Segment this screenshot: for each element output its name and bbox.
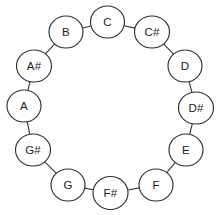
note-label-d: D xyxy=(181,60,190,72)
note-label-gs: G# xyxy=(25,144,41,156)
edge-cs-to-d xyxy=(164,44,174,54)
note-label-cs: C# xyxy=(144,26,160,38)
note-node-g[interactable]: G xyxy=(51,169,85,201)
edge-b-to-c xyxy=(82,26,91,28)
note-node-f[interactable]: F xyxy=(139,169,173,201)
note-node-ds[interactable]: D# xyxy=(179,92,214,124)
note-label-fs: F# xyxy=(104,187,118,199)
note-label-f: F xyxy=(152,179,159,191)
edge-a-to-as xyxy=(28,82,30,91)
note-node-cs[interactable]: C# xyxy=(135,16,170,48)
note-node-d[interactable]: D xyxy=(168,50,202,82)
note-node-c[interactable]: C xyxy=(91,6,125,38)
edge-e-to-f xyxy=(167,162,176,172)
edge-gs-to-a xyxy=(27,122,30,135)
note-node-fs[interactable]: F# xyxy=(93,177,128,210)
note-label-ds: D# xyxy=(188,102,204,114)
note-node-b[interactable]: B xyxy=(49,16,83,48)
note-node-a[interactable]: A xyxy=(7,90,41,122)
edge-layer xyxy=(27,26,192,190)
note-label-a: A xyxy=(20,100,28,112)
note-label-c: C xyxy=(103,16,112,28)
edge-d-to-ds xyxy=(189,82,192,93)
chromatic-circle-canvas: CC#DD#EFF#GG#AA#B xyxy=(0,0,219,215)
edge-as-to-b xyxy=(45,44,54,54)
note-node-e[interactable]: E xyxy=(169,134,203,166)
edge-ds-to-e xyxy=(190,124,193,135)
edge-f-to-fs xyxy=(128,188,140,190)
chromatic-circle-diagram: CC#DD#EFF#GG#AA#B xyxy=(0,0,219,215)
edge-fs-to-g xyxy=(85,188,94,190)
note-label-as: A# xyxy=(27,60,42,72)
note-node-as[interactable]: A# xyxy=(17,50,52,82)
note-label-e: E xyxy=(182,144,190,156)
node-layer: CC#DD#EFF#GG#AA#B xyxy=(7,6,214,210)
edge-c-to-cs xyxy=(124,26,135,28)
note-node-gs[interactable]: G# xyxy=(16,134,51,166)
note-label-b: B xyxy=(62,26,70,38)
note-label-g: G xyxy=(63,179,72,191)
edge-g-to-gs xyxy=(45,162,57,174)
